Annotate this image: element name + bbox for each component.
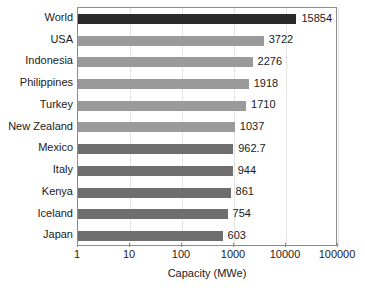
category-label-kenya: Kenya bbox=[1, 184, 73, 199]
bar-row: 754 bbox=[78, 204, 336, 226]
x-tick-label-10: 10 bbox=[123, 247, 135, 262]
plot-area: 1585437222276191817101037962.79448617546… bbox=[77, 7, 337, 246]
category-label-new-zealand: New Zealand bbox=[1, 119, 73, 134]
bar-world bbox=[78, 14, 296, 24]
bar-row: 3722 bbox=[78, 30, 336, 52]
bar-row: 962.7 bbox=[78, 138, 336, 160]
bar-turkey bbox=[78, 101, 246, 111]
bar-row: 944 bbox=[78, 160, 336, 182]
gridline-100000 bbox=[338, 8, 339, 245]
category-label-iceland: Iceland bbox=[1, 206, 73, 221]
category-label-world: World bbox=[1, 10, 73, 25]
capacity-bar-chart: WorldUSAIndonesiaPhilippinesTurkeyNew Ze… bbox=[0, 0, 365, 292]
bar-row: 1037 bbox=[78, 117, 336, 139]
bar-indonesia bbox=[78, 57, 253, 67]
bar-row: 1710 bbox=[78, 95, 336, 117]
bar-value-label: 861 bbox=[236, 184, 254, 199]
bar-value-label: 603 bbox=[228, 228, 246, 243]
bar-value-label: 15854 bbox=[301, 11, 332, 26]
category-label-japan: Japan bbox=[1, 227, 73, 242]
bar-value-label: 3722 bbox=[269, 32, 293, 47]
bar-row: 15854 bbox=[78, 8, 336, 30]
category-label-indonesia: Indonesia bbox=[1, 53, 73, 68]
x-tick-label-1000: 1000 bbox=[221, 247, 245, 262]
x-axis-title: Capacity (MWe) bbox=[77, 266, 337, 281]
bar-value-label: 754 bbox=[233, 206, 251, 221]
x-axis-ticks: 110100100010000100000 bbox=[77, 247, 337, 263]
bar-iceland bbox=[78, 209, 228, 219]
x-tick-label-10000: 10000 bbox=[270, 247, 301, 262]
category-label-italy: Italy bbox=[1, 162, 73, 177]
bar-row: 2276 bbox=[78, 51, 336, 73]
bar-row: 861 bbox=[78, 182, 336, 204]
x-tick-label-100: 100 bbox=[172, 247, 190, 262]
bar-japan bbox=[78, 231, 223, 241]
bar-row: 1918 bbox=[78, 73, 336, 95]
category-label-mexico: Mexico bbox=[1, 140, 73, 155]
bar-value-label: 1037 bbox=[240, 119, 264, 134]
category-label-philippines: Philippines bbox=[1, 75, 73, 90]
bar-value-label: 962.7 bbox=[238, 141, 266, 156]
category-label-usa: USA bbox=[1, 32, 73, 47]
bar-value-label: 1710 bbox=[251, 97, 275, 112]
category-label-turkey: Turkey bbox=[1, 97, 73, 112]
x-tick-label-1: 1 bbox=[74, 247, 80, 262]
bar-usa bbox=[78, 36, 264, 46]
bar-italy bbox=[78, 166, 233, 176]
bar-kenya bbox=[78, 188, 231, 198]
bar-row: 603 bbox=[78, 225, 336, 247]
bar-new-zealand bbox=[78, 122, 235, 132]
bar-mexico bbox=[78, 144, 233, 154]
bar-value-label: 1918 bbox=[254, 76, 278, 91]
bar-philippines bbox=[78, 79, 249, 89]
bar-value-label: 2276 bbox=[258, 54, 282, 69]
bar-value-label: 944 bbox=[238, 163, 256, 178]
category-axis-labels: WorldUSAIndonesiaPhilippinesTurkeyNew Ze… bbox=[0, 7, 73, 246]
x-tick-label-100000: 100000 bbox=[319, 247, 356, 262]
